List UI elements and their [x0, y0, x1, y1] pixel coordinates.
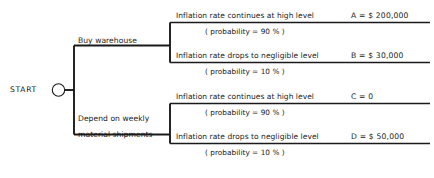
event-label-b: Inflation rate drops to negligible level: [176, 52, 319, 60]
probability-label-a: ( probability = 90 % ): [205, 28, 285, 35]
decision-label-depend-shipments-line1: Depend on weekly: [78, 115, 149, 123]
probability-label-c: ( probability = 90 % ): [205, 109, 285, 116]
decision-tree-diagram: START Buy warehouse Depend on weekly mat…: [0, 0, 434, 178]
event-label-a: Inflation rate continues at high level: [176, 12, 314, 20]
payoff-label-a: A = $ 200,000: [351, 12, 409, 20]
decision-label-buy-warehouse: Buy warehouse: [78, 37, 137, 45]
probability-label-b: ( probability = 10 % ): [205, 68, 285, 75]
event-label-d: Inflation rate drops to negligible level: [176, 133, 319, 141]
event-label-c: Inflation rate continues at high level: [176, 93, 314, 101]
start-label: START: [10, 86, 37, 94]
start-node-circle: [52, 84, 64, 96]
payoff-label-d: D = $ 50,000: [351, 133, 404, 141]
decision-label-depend-shipments-line2: material shipments: [78, 131, 153, 139]
payoff-label-c: C = 0: [351, 93, 373, 101]
payoff-label-b: B = $ 30,000: [351, 52, 404, 60]
probability-label-d: ( probability = 10 % ): [205, 149, 285, 156]
